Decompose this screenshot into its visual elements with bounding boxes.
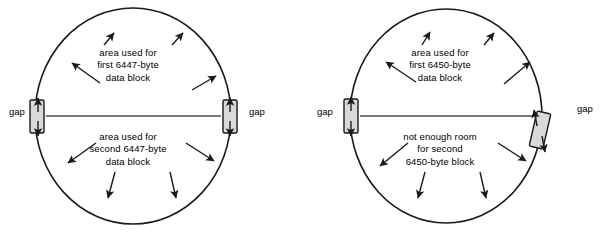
diagram-6447-byte-blocks: area used for first 6447-byte data block… bbox=[0, 0, 308, 232]
track-circle-graphic-right bbox=[308, 0, 616, 232]
caption-line: for second bbox=[372, 143, 508, 155]
lower-region-caption: not enough room for second 6450-byte blo… bbox=[372, 131, 508, 168]
caption-line: area used for bbox=[58, 131, 198, 143]
diagram-6450-byte-blocks: area used for first 6450-byte data block… bbox=[308, 0, 616, 232]
upper-region-caption: area used for first 6447-byte data block bbox=[64, 47, 192, 84]
gap-label-west: gap bbox=[9, 106, 25, 117]
caption-line: first 6447-byte bbox=[64, 59, 192, 71]
caption-line: area used for bbox=[64, 47, 192, 59]
caption-line: first 6450-byte bbox=[376, 59, 504, 71]
caption-line: data block bbox=[64, 72, 192, 84]
gap-block-west bbox=[30, 100, 44, 133]
gap-label-west: gap bbox=[317, 106, 333, 117]
caption-line: second 6447-byte bbox=[58, 143, 198, 155]
upper-region-caption: area used for first 6450-byte data block bbox=[376, 47, 504, 84]
caption-line: data block bbox=[376, 72, 504, 84]
caption-line: area used for bbox=[376, 47, 504, 59]
caption-line: 6450-byte block bbox=[372, 156, 508, 168]
disk-track-block-fit-figure: area used for first 6447-byte data block… bbox=[0, 0, 616, 232]
caption-line: data block bbox=[58, 156, 198, 168]
gap-label-east: gap bbox=[249, 106, 265, 117]
caption-line: not enough room bbox=[372, 131, 508, 143]
gap-label-east: gap bbox=[577, 103, 593, 114]
lower-region-caption: area used for second 6447-byte data bloc… bbox=[58, 131, 198, 168]
